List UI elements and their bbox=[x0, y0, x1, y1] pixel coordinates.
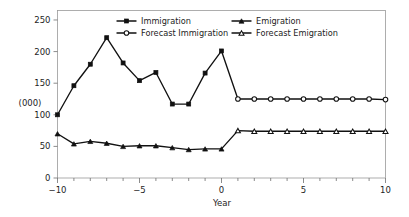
data-point-marker bbox=[170, 102, 174, 106]
x-tick-label: −5 bbox=[133, 185, 146, 195]
y-tick-label: 150 bbox=[34, 78, 50, 88]
y-tick-label: 50 bbox=[40, 141, 51, 151]
data-point-marker bbox=[350, 97, 355, 102]
x-axis-title: Year bbox=[212, 198, 232, 208]
data-point-marker bbox=[138, 79, 142, 83]
legend-label: Immigration bbox=[141, 16, 191, 26]
data-point-marker bbox=[121, 61, 125, 65]
data-point-marker bbox=[88, 62, 92, 66]
y-tick-label: 200 bbox=[34, 47, 50, 57]
data-point-marker bbox=[124, 31, 129, 36]
data-point-marker bbox=[318, 97, 323, 102]
y-axis-title: (000) bbox=[19, 98, 42, 108]
data-point-marker bbox=[105, 36, 109, 40]
legend-label: Emigration bbox=[256, 16, 301, 26]
data-point-marker bbox=[268, 97, 273, 102]
data-point-marker bbox=[334, 97, 339, 102]
x-tick-label: 0 bbox=[219, 185, 224, 195]
data-point-marker bbox=[367, 97, 372, 102]
x-tick-label: 10 bbox=[380, 185, 391, 195]
data-point-marker bbox=[285, 97, 290, 102]
data-point-marker bbox=[203, 71, 207, 75]
data-point-marker bbox=[383, 97, 388, 102]
y-tick-label: 100 bbox=[34, 110, 50, 120]
y-tick-label: 250 bbox=[34, 15, 50, 25]
legend-label: Forecast Immigration bbox=[141, 28, 228, 38]
legend-label: Forecast Emigration bbox=[256, 28, 338, 38]
migration-forecast-line-chart: 050100150200250 −10−50510 (000) Year Imm… bbox=[0, 0, 409, 217]
data-point-marker bbox=[125, 19, 129, 23]
data-point-marker bbox=[72, 84, 76, 88]
data-point-marker bbox=[187, 102, 191, 106]
x-tick-label: 5 bbox=[301, 185, 306, 195]
y-tick-label: 0 bbox=[45, 173, 50, 183]
data-point-marker bbox=[236, 97, 241, 102]
data-point-marker bbox=[252, 97, 257, 102]
data-point-marker bbox=[56, 113, 60, 117]
x-tick-label: −10 bbox=[49, 185, 67, 195]
data-point-marker bbox=[154, 70, 158, 74]
chart-container: 050100150200250 −10−50510 (000) Year Imm… bbox=[0, 0, 409, 217]
data-point-marker bbox=[301, 97, 306, 102]
